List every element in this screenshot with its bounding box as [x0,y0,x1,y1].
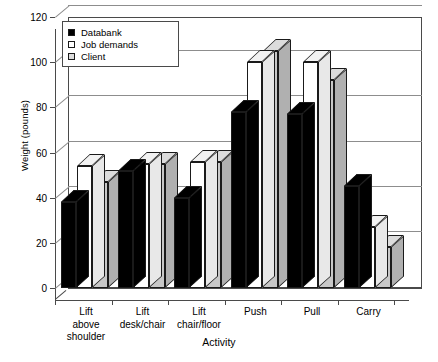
bar-front-face [174,198,189,288]
y-tick-mark [50,153,55,154]
legend-label: Databank [81,27,122,38]
bar [344,174,372,288]
bar-side-face [318,50,331,288]
x-category-label-line: chair/floor [153,319,245,332]
bar-side-face [205,150,218,288]
x-tick-mark [168,300,169,305]
bar-side-face [76,190,89,288]
y-tick-label: 40 [17,192,47,203]
y-axis-title: Weight (pounds) [19,76,30,196]
legend-item: Client [68,50,172,62]
legend-swatch-databank [68,29,75,36]
bar [174,186,202,288]
x-tick-mark [225,300,226,305]
y-tick-label: 0 [17,283,47,294]
gridline [68,5,422,6]
y-tick-label: 80 [17,102,47,113]
x-category-label: Carry [323,306,415,319]
y-tick-label: 120 [17,12,47,23]
bar-side-face [302,102,315,288]
bar-front-face [231,112,246,288]
bar [61,190,89,288]
legend-item: Job demands [68,38,172,50]
y-tick-mark [50,62,55,63]
y-axis-line [55,29,56,300]
x-axis-line [55,300,409,301]
y-tick-label: 60 [17,147,47,158]
y-tick-mark [50,198,55,199]
bar-front-face [61,202,76,288]
x-category-label-line: Carry [323,306,415,319]
y-tick-mark [50,107,55,108]
x-tick-mark [112,300,113,305]
legend-label: Client [81,51,105,62]
bar-front-face [287,114,302,288]
y-tick-mark [50,243,55,244]
plot-floor [55,288,422,300]
legend-swatch-job-demands [68,41,75,48]
x-tick-mark [338,300,339,305]
bar-chart: Weight (pounds) Activity 020406080100120… [0,0,438,362]
gridline-connector [55,5,69,17]
legend-label: Job demands [81,39,138,50]
x-category-label-line: shoulder [40,331,132,344]
bar-side-face [359,175,372,288]
bar-side-face [246,100,259,288]
y-tick-label: 100 [17,57,47,68]
bar-side-face [262,50,275,288]
bar [118,159,146,288]
y-tick-mark [50,17,55,18]
y-tick-mark [50,288,55,289]
x-tick-mark [394,300,395,305]
bar-side-face [92,154,105,288]
bar [287,102,315,288]
x-tick-mark [55,300,56,305]
legend-swatch-client [68,53,75,60]
chart-legend: Databank Job demands Client [62,21,179,67]
bar-front-face [344,186,359,288]
bar-side-face [375,215,388,288]
gridline [68,95,422,96]
bar-side-face [133,159,146,288]
bar-side-face [149,152,162,288]
y-tick-label: 20 [17,237,47,248]
bar [231,100,259,288]
bar-front-face [118,171,133,288]
legend-item: Databank [68,26,172,38]
bar-side-face [189,186,202,288]
x-tick-mark [281,300,282,305]
